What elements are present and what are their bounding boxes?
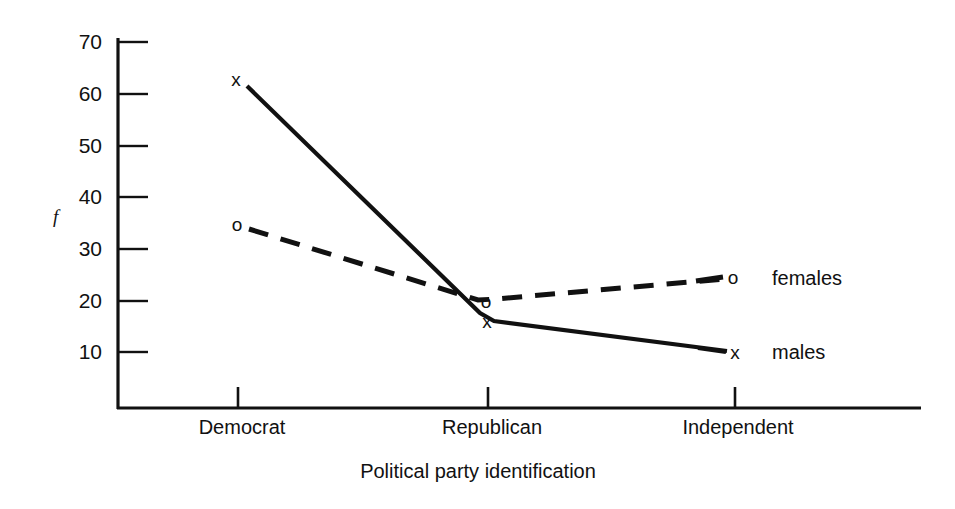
- legend-label-females: females: [772, 267, 842, 290]
- y-tick-label-60: 60: [56, 83, 102, 104]
- y-tick-label-10: 10: [56, 341, 102, 362]
- data-point-females-democrat: o: [232, 215, 243, 234]
- x-tick-label-republican: Republican: [442, 416, 542, 439]
- x-axis-ticks: [238, 387, 735, 408]
- y-tick-label-50: 50: [56, 135, 102, 156]
- data-point-males-democrat: x: [231, 70, 241, 89]
- y-tick-label-30: 30: [56, 238, 102, 259]
- y-axis-title: f: [53, 206, 58, 228]
- data-point-males-independent: x: [730, 343, 740, 362]
- x-tick-label-democrat: Democrat: [199, 416, 286, 439]
- data-point-females-independent: o: [728, 268, 739, 287]
- legend-label-males: males: [772, 341, 825, 364]
- line-chart: 70 60 50 40 30 20 10 f Democrat Republic…: [0, 0, 955, 509]
- y-tick-label-40: 40: [56, 186, 102, 207]
- y-tick-label-20: 20: [56, 290, 102, 311]
- series-line-females: [249, 229, 725, 300]
- y-tick-label-70: 70: [56, 31, 102, 52]
- data-point-females-republican: o: [481, 292, 492, 311]
- x-axis-title: Political party identification: [360, 460, 596, 483]
- x-tick-label-independent: Independent: [682, 416, 793, 439]
- y-axis-ticks: [118, 42, 148, 352]
- data-point-males-republican: x: [482, 312, 492, 331]
